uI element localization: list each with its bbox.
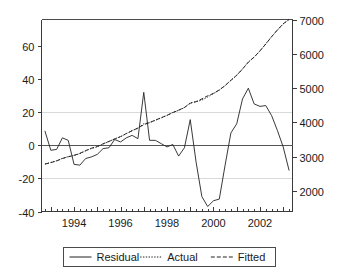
- legend-label-residual: Residual: [97, 251, 140, 263]
- chart-background: [0, 0, 341, 275]
- chart-container: -40-200204060 200030004000500060007000 1…: [0, 0, 341, 275]
- right-tick-label: 2000: [300, 186, 324, 198]
- right-tick-label: 4000: [300, 117, 324, 129]
- chart-legend: ResidualActualFitted: [64, 248, 276, 267]
- legend-label-fitted: Fitted: [238, 251, 266, 263]
- residual-actual-fitted-chart: -40-200204060 200030004000500060007000 1…: [0, 0, 341, 275]
- legend-label-actual: Actual: [167, 251, 198, 263]
- right-tick-label: 7000: [300, 15, 324, 27]
- x-tick-label: 2002: [248, 217, 272, 229]
- left-tick-label: 60: [22, 41, 34, 53]
- left-tick-label: -40: [19, 207, 35, 219]
- x-tick-label: 1996: [108, 217, 132, 229]
- x-tick-label: 1994: [62, 217, 86, 229]
- right-tick-label: 6000: [300, 49, 324, 61]
- left-tick-label: 0: [28, 140, 34, 152]
- left-tick-label: 20: [22, 107, 34, 119]
- right-tick-label: 3000: [300, 152, 324, 164]
- left-tick-label: -20: [19, 173, 35, 185]
- x-tick-label: 1998: [155, 217, 179, 229]
- right-tick-label: 5000: [300, 83, 324, 95]
- x-tick-label: 2000: [201, 217, 225, 229]
- left-tick-label: 40: [22, 74, 34, 86]
